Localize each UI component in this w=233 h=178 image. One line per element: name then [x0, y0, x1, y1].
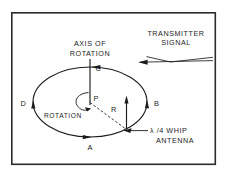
point-label-d: D — [20, 99, 26, 108]
transmitter-signal-label-line2: SIGNAL — [161, 38, 191, 47]
rotation-label: ROTATION — [44, 112, 82, 119]
point-label-c: C — [96, 64, 102, 73]
point-label-b: B — [154, 99, 159, 108]
point-label-a: A — [87, 143, 92, 152]
antenna-rotation-diagram: AXIS OF ROTATION TRANSMITTER SIGNAL C A … — [0, 0, 233, 178]
axis-of-rotation-label-line2: ROTATION — [70, 49, 110, 58]
transmitter-signal-label-line1: TRANSMITTER — [147, 29, 204, 38]
point-label-p: P — [94, 94, 99, 103]
whip-antenna-label-line2: ANTENNA — [156, 136, 194, 145]
figure-root: AXIS OF ROTATION TRANSMITTER SIGNAL C A … — [0, 0, 233, 178]
radius-label-r: R — [111, 105, 117, 114]
whip-antenna-label-line1: λ /4 WHIP — [150, 126, 187, 135]
axis-of-rotation-label-line1: AXIS OF — [74, 39, 106, 48]
